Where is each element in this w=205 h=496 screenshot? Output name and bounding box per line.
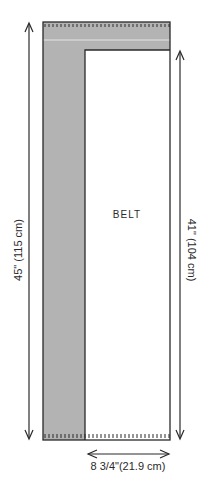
height-overall-arrow [25, 23, 33, 439]
height-overall-label: 45" (115 cm) [12, 219, 24, 281]
height-belt-arrow [176, 51, 184, 439]
pattern-schematic: 45" (115 cm) 41" (104 cm) 8 3/4"(21.9 cm… [0, 0, 205, 496]
belt-panel [85, 50, 170, 440]
height-belt-label: 41" (104 cm) [186, 219, 198, 282]
top-edge-ticks [43, 23, 170, 27]
width-arrow [88, 450, 169, 458]
piece-label: BELT [113, 209, 141, 220]
bottom-edge-ticks [43, 434, 170, 440]
width-label: 8 3/4"(21.9 cm) [91, 460, 166, 472]
